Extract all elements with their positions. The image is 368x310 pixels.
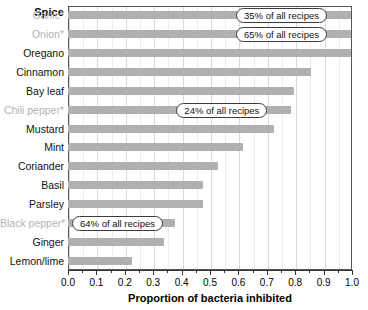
bar-row-label: Garlic* [0, 6, 64, 24]
x-tick-minor [82, 270, 83, 273]
bar-callout: 65% of all recipes [236, 27, 327, 42]
x-tick-major [324, 270, 325, 275]
bar-row-label: Bay leaf [0, 82, 64, 100]
bar [68, 143, 243, 151]
x-tick-major [182, 270, 183, 275]
bar-row: Cinnamon [0, 63, 368, 81]
bar-row: Ginger [0, 233, 368, 251]
x-tick-label: 0.7 [252, 277, 282, 288]
bar-row: Garlic*35% of all recipes [0, 6, 368, 24]
bar-row: Onion*65% of all recipes [0, 25, 368, 43]
x-tick-label: 0.1 [81, 277, 111, 288]
x-tick-minor [167, 270, 168, 273]
x-tick-minor [253, 270, 254, 273]
bar [68, 181, 203, 189]
bar-callout: 35% of all recipes [236, 8, 327, 23]
x-tick-major [210, 270, 211, 275]
bar-callout: 64% of all recipes [72, 216, 163, 231]
x-tick-label: 0.3 [138, 277, 168, 288]
x-tick-major [352, 270, 353, 275]
bar-row-label: Ginger [0, 233, 64, 251]
x-tick-minor [196, 270, 197, 273]
bar-row: Mustard [0, 120, 368, 138]
x-tick-minor [224, 270, 225, 273]
bar-row: Coriander [0, 157, 368, 175]
bar [68, 49, 351, 57]
bar-row-label: Black pepper* [0, 214, 64, 232]
x-tick-label: 0.8 [280, 277, 310, 288]
bar [68, 68, 311, 76]
bar-row: Oregano [0, 44, 368, 62]
bar-row: Lemon/lime [0, 252, 368, 270]
x-tick-label: 1.0 [337, 277, 367, 288]
x-tick-minor [281, 270, 282, 273]
bar [68, 87, 294, 95]
spice-bar-chart: Spice Garlic*35% of all recipesOnion*65%… [0, 0, 368, 310]
x-tick-major [68, 270, 69, 275]
x-tick-label: 0.9 [309, 277, 339, 288]
x-tick-major [153, 270, 154, 275]
x-tick-minor [338, 270, 339, 273]
bar-row-label: Parsley [0, 195, 64, 213]
bar [68, 257, 132, 265]
bar-row: Parsley [0, 195, 368, 213]
bar [68, 125, 274, 133]
bar-row: Bay leaf [0, 82, 368, 100]
bar-callout: 24% of all recipes [176, 103, 267, 118]
bar-row: Chili pepper*24% of all recipes [0, 101, 368, 119]
x-tick-major [238, 270, 239, 275]
bar-row-label: Oregano [0, 44, 64, 62]
bar-row-label: Mustard [0, 120, 64, 138]
bar-row-label: Onion* [0, 25, 64, 43]
bar-row: Basil [0, 176, 368, 194]
bar-row: Black pepper*64% of all recipes [0, 214, 368, 232]
x-axis-title: Proportion of bacteria inhibited [68, 292, 352, 304]
x-tick-major [96, 270, 97, 275]
bar-row-label: Mint [0, 138, 64, 156]
bar-row-label: Lemon/lime [0, 252, 64, 270]
x-tick-major [295, 270, 296, 275]
bar [68, 162, 218, 170]
x-tick-minor [111, 270, 112, 273]
bar [68, 200, 203, 208]
x-tick-minor [139, 270, 140, 273]
x-tick-label: 0.6 [223, 277, 253, 288]
bar-row-label: Coriander [0, 157, 64, 175]
x-tick-label: 0.5 [195, 277, 225, 288]
x-tick-minor [309, 270, 310, 273]
bar-row-label: Basil [0, 176, 64, 194]
x-tick-major [125, 270, 126, 275]
bar-row: Mint [0, 138, 368, 156]
bar-row-label: Chili pepper* [0, 101, 64, 119]
x-tick-label: 0.4 [167, 277, 197, 288]
x-tick-label: 0.0 [53, 277, 83, 288]
bar [68, 238, 164, 246]
bar-row-label: Cinnamon [0, 63, 64, 81]
x-tick-label: 0.2 [110, 277, 140, 288]
bar-rows-layer: Garlic*35% of all recipesOnion*65% of al… [0, 0, 368, 310]
x-tick-major [267, 270, 268, 275]
